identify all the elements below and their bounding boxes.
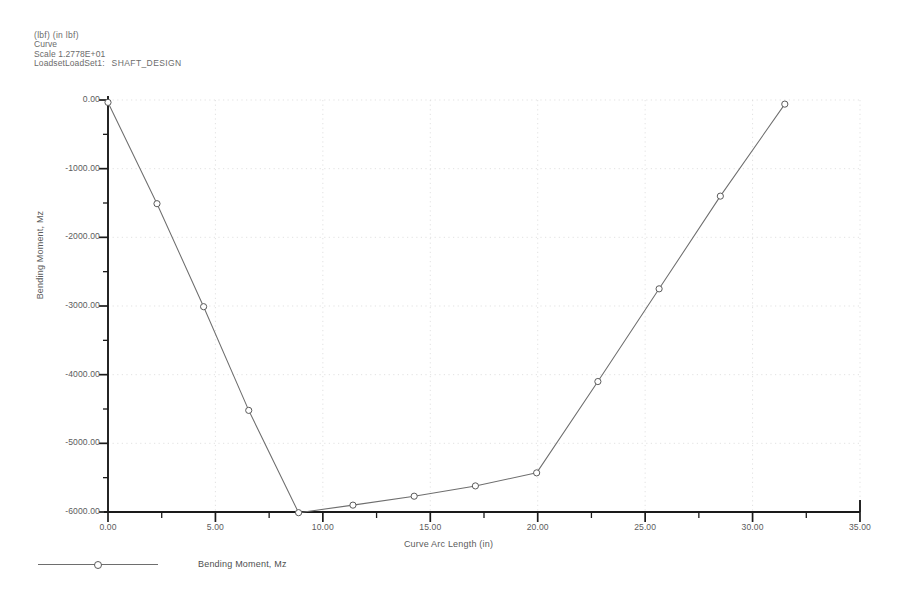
legend-label: Bending Moment, Mz bbox=[198, 559, 287, 569]
x-tick-label: 15.00 bbox=[400, 522, 460, 532]
legend-swatch bbox=[38, 558, 158, 570]
y-axis-tick-labels: 0.00-1000.00-2000.00-3000.00-4000.00-500… bbox=[22, 0, 100, 596]
plot-area bbox=[0, 0, 897, 596]
y-tick-label: 0.00 bbox=[30, 94, 100, 104]
grid-lines bbox=[108, 100, 860, 512]
x-tick-label: 30.00 bbox=[723, 522, 783, 532]
y-tick-label: -3000.00 bbox=[30, 300, 100, 310]
x-tick-label: 5.00 bbox=[185, 522, 245, 532]
y-tick-label: -4000.00 bbox=[30, 369, 100, 379]
header-loadset-name: SHAFT_DESIGN bbox=[112, 58, 182, 68]
x-tick-label: 35.00 bbox=[830, 522, 890, 532]
x-axis-tick-labels: 0.005.0010.0015.0020.0025.0030.0035.00 bbox=[0, 522, 897, 542]
y-tick-label: -5000.00 bbox=[30, 437, 100, 447]
x-tick-label: 0.00 bbox=[78, 522, 138, 532]
y-tick-label: -1000.00 bbox=[30, 163, 100, 173]
x-tick-label: 25.00 bbox=[615, 522, 675, 532]
data-series-layer bbox=[105, 99, 788, 515]
chart-legend: Bending Moment, Mz bbox=[38, 558, 287, 570]
x-tick-label: 10.00 bbox=[293, 522, 353, 532]
legend-circle-marker-icon bbox=[94, 561, 102, 569]
axis-tick-marks bbox=[99, 100, 860, 522]
y-tick-label: -6000.00 bbox=[30, 506, 100, 516]
y-tick-label: -2000.00 bbox=[30, 231, 100, 241]
chart-container: (lbf) (in lbf) Curve Scale 1.2778E+01 Lo… bbox=[0, 0, 897, 596]
x-tick-label: 20.00 bbox=[508, 522, 568, 532]
